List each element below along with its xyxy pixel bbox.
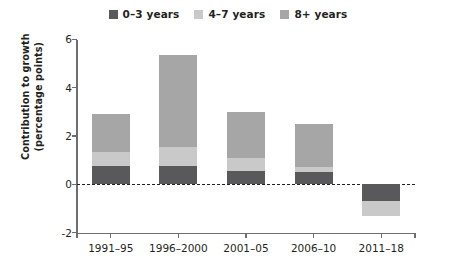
legend-item-0-3: 0–3 years	[109, 9, 180, 20]
bar-segment-8+years	[159, 55, 197, 147]
bar-1996-2000	[159, 55, 197, 184]
bar-1991-95	[92, 114, 130, 184]
bar-segment-47years	[92, 152, 130, 166]
bar-segment-03years	[295, 172, 333, 184]
x-axis-end-tick-0	[76, 233, 77, 238]
bar-2001-05	[227, 112, 265, 184]
chart-container: 0–3 years 4–7 years 8+ years Contributio…	[0, 0, 456, 268]
x-tick-mark-0	[110, 233, 111, 238]
x-axis-label-0: 1991–95	[77, 243, 145, 254]
bar-2011-18	[362, 184, 400, 215]
x-tick-mark-3	[313, 233, 314, 238]
x-axis-label-1: 1996–2000	[145, 243, 213, 254]
x-tick-mark-4	[381, 233, 382, 238]
y-axis-title-line2: (percentage points)	[33, 42, 44, 151]
y-tick-label-0: 0	[60, 179, 72, 190]
bar-segment-03years	[92, 166, 130, 184]
x-axis-end-tick-1	[414, 233, 415, 238]
bar-segment-47years	[227, 158, 265, 171]
y-tick-label-4: 4	[60, 83, 72, 94]
x-axis-label-4: 2011–18	[347, 243, 415, 254]
x-tick-mark-2	[245, 233, 246, 238]
y-tick-label-6: 6	[60, 34, 72, 45]
y-axis-title: Contribution to growth (percentage point…	[20, 17, 45, 177]
bar-segment-47years	[362, 201, 400, 215]
legend-item-8plus: 8+ years	[280, 9, 347, 20]
bar-segment-8+years	[227, 112, 265, 158]
plot-area	[77, 40, 415, 233]
bar-segment-03years	[227, 171, 265, 184]
bar-2006-10	[295, 124, 333, 184]
legend-label-0-3: 0–3 years	[123, 9, 180, 20]
legend-swatch-4-7-icon	[194, 10, 203, 19]
bar-segment-47years	[295, 167, 333, 172]
bar-segment-03years	[362, 184, 400, 201]
y-tick-label-neg2: -2	[60, 228, 72, 239]
bar-segment-8+years	[295, 124, 333, 167]
bar-segment-47years	[159, 147, 197, 166]
x-tick-mark-1	[178, 233, 179, 238]
legend-item-4-7: 4–7 years	[194, 9, 265, 20]
x-axis-label-2: 2001–05	[212, 243, 280, 254]
bar-segment-8+years	[92, 114, 130, 151]
legend-swatch-0-3-icon	[109, 10, 118, 19]
y-axis-title-line1: Contribution to growth	[20, 33, 31, 160]
legend-label-4-7: 4–7 years	[208, 9, 265, 20]
legend-label-8plus: 8+ years	[294, 9, 347, 20]
chart-legend: 0–3 years 4–7 years 8+ years	[0, 9, 456, 20]
y-tick-label-2: 2	[60, 131, 72, 142]
x-axis-label-3: 2006–10	[280, 243, 348, 254]
bar-segment-03years	[159, 166, 197, 184]
legend-swatch-8plus-icon	[280, 10, 289, 19]
